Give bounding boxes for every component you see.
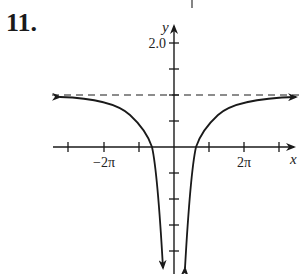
x-tick-label-neg-2pi: −2π <box>93 155 115 170</box>
graph: −2π 2π x 2.0 y <box>0 0 303 274</box>
y-tick-label-2: 2.0 <box>149 36 167 51</box>
curve-left <box>60 97 163 268</box>
y-axis-label: y <box>160 19 169 35</box>
curve-right <box>185 97 296 268</box>
x-tick-label-2pi: 2π <box>237 155 251 170</box>
x-axis-label: x <box>289 151 297 167</box>
x-axis: −2π 2π x <box>53 142 297 170</box>
